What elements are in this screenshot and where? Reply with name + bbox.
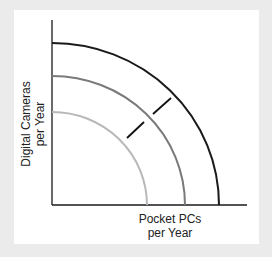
shift-arrow-inner-to-middle [127, 122, 144, 138]
outer-ppf-curve [52, 43, 219, 205]
x-axis-label: Pocket PCs per Year [120, 212, 220, 240]
y-axis-label-line2: per Year [33, 69, 47, 179]
y-axis-label: Digital Cameras per Year [19, 69, 47, 179]
middle-ppf-curve [52, 76, 185, 205]
y-axis-label-line1: Digital Cameras [19, 69, 33, 179]
shift-arrow-middle-to-outer [153, 98, 171, 114]
x-axis-label-line2: per Year [120, 226, 220, 240]
x-axis-label-line1: Pocket PCs [120, 212, 220, 226]
inner-ppf-curve [52, 112, 147, 205]
